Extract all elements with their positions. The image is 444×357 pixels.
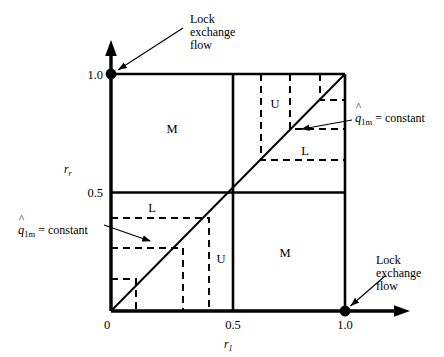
y-axis-label: rr: [64, 163, 72, 178]
region-label-M-upper-left: M: [166, 122, 177, 136]
dashed-contour-lower-2: [111, 248, 183, 311]
lock-bottom-line3: flow: [376, 279, 398, 293]
lock-top-line2: exchange: [190, 25, 235, 39]
lock-bottom-line1: Lock: [376, 253, 401, 267]
q-upper-expression: q1m = constant: [355, 111, 426, 127]
axis-group: [105, 40, 410, 317]
region-label-L-lower-left: L: [148, 201, 156, 215]
q-lower-expression: q1m = constant: [18, 223, 89, 239]
figure-canvas: 0 0.5 1.0 0.5 1.0 r1 rr M U L L U M: [0, 0, 444, 357]
lock-top-line1: Lock: [190, 12, 215, 26]
annotation-q-upper: ^ q1m = constant: [355, 100, 426, 127]
x-tick-0-5: 0.5: [225, 318, 241, 332]
region-label-U-lower-left: U: [216, 252, 225, 266]
y-tick-1-0: 1.0: [87, 68, 103, 82]
x-tick-0: 0: [104, 318, 110, 332]
region-label-group: M U L L U M: [148, 97, 309, 266]
lock-exchange-marker-bottom-right: [340, 306, 351, 317]
solid-structure-group: [111, 74, 345, 311]
region-label-L-upper-right: L: [301, 144, 309, 158]
lock-bottom-line2: exchange: [376, 266, 421, 280]
region-label-U-upper-right: U: [270, 97, 279, 111]
x-axis-label: r1: [224, 338, 232, 353]
x-axis-arrowhead: [394, 305, 410, 317]
region-label-M-lower-right: M: [279, 246, 290, 260]
annotation-lock-exchange-bottom: Lock exchange flow: [376, 253, 421, 293]
regime-diagram-svg: 0 0.5 1.0 0.5 1.0 r1 rr M U L L U M: [0, 0, 444, 357]
y-axis-arrowhead: [105, 40, 117, 56]
y-tick-0-5: 0.5: [87, 186, 103, 200]
leader-line-group: [104, 28, 385, 306]
x-tick-1-0: 1.0: [337, 318, 353, 332]
annotation-lock-exchange-top: Lock exchange flow: [190, 12, 235, 52]
lock-exchange-marker-top-left: [106, 69, 117, 80]
leader-lock-top: [118, 28, 183, 70]
annotation-q-lower: ^ q1m = constant: [18, 212, 89, 239]
lock-top-line3: flow: [190, 38, 212, 52]
